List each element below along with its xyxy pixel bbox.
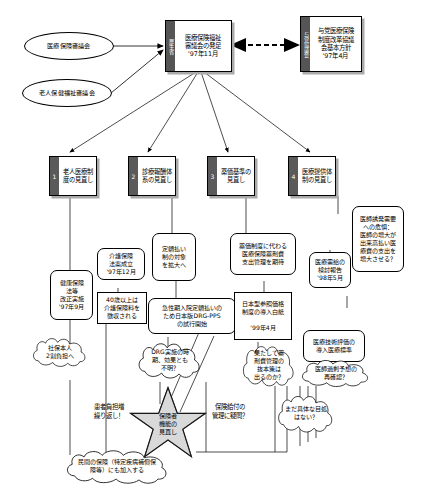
box-ruling-party-policy[interactable]: 与党協議会 与党医療保険 制度改革協議 会基本方針 '97年4月 bbox=[300, 16, 362, 72]
reform-box-number: 1 bbox=[50, 157, 59, 195]
callout-label: 定額払い 制の対象 を拡大へ bbox=[162, 245, 186, 269]
callout-label: 医療需給の 検討報告 '98年5月 bbox=[315, 258, 345, 282]
box-body-label: 医療保険福祉 審議会の発足 '97年11月 bbox=[175, 21, 231, 71]
reform-box-number: 4 bbox=[289, 157, 298, 195]
callout-supply-demand-report[interactable]: 医療需給の 検討報告 '98年5月 bbox=[309, 252, 351, 288]
callout-drg-pps-trial[interactable]: 急性期入院定額払いの ため日本版DRG-PPS の試行開始 bbox=[148, 298, 236, 334]
callout-label: 保険給付の 管理に疑問？ bbox=[212, 403, 248, 420]
callout-drug-cost-measures-doubt[interactable]: 果たして薬 剤費管理の 抜本策は 出るのか？ bbox=[240, 342, 298, 388]
box-spine-label: 厚生省 bbox=[166, 21, 175, 71]
callout-drug-pricing-alternative[interactable]: 薬価制度に代わる 医療保険薬剤費 支出管理を期待 bbox=[230, 233, 296, 275]
box-spine-label: 与党協議会 bbox=[301, 17, 310, 71]
input-oval-elderly-welfare-council[interactable]: 老人保健福祉審議会 bbox=[22, 79, 112, 107]
callout-reference-price-shelved[interactable]: 日本型参照価格 制度の導入白紙 '99年4月 bbox=[234, 292, 292, 340]
callout-label: 介護保険 法案成立 '97年12月 bbox=[106, 252, 135, 276]
reform-box-2[interactable]: 2 診療報酬体 系の見直し bbox=[128, 156, 176, 196]
box-ministry-council[interactable]: 厚生省 医療保険福祉 審議会の発足 '97年11月 bbox=[165, 20, 232, 72]
callout-label: 患者負担増 繰り返し！ bbox=[94, 403, 124, 420]
callout-fixed-payment-expansion[interactable]: 定額払い 制の対象 を拡大へ bbox=[152, 233, 196, 281]
box-body-label: 与党医療保険 制度改革協議 会基本方針 '97年4月 bbox=[310, 17, 361, 71]
diagram-canvas: ruling party (dashed double arrow) --> bbox=[0, 0, 421, 503]
reform-box-4[interactable]: 4 医療提供体 制の見直し bbox=[288, 156, 336, 196]
callout-label: 日本型参照価格 制度の導入白紙 '99年4月 bbox=[242, 300, 284, 332]
star-label: 保険者 機能の 見直し bbox=[159, 412, 177, 437]
reform-box-label: 診療報酬体 系の見直し bbox=[138, 157, 175, 195]
oval-label: 老人保健福祉審議会 bbox=[39, 89, 95, 97]
callout-label: 健康保険 法等 改正実施 '97年9月 bbox=[59, 279, 84, 311]
reform-box-label: 老人医療制 度の見直し bbox=[59, 157, 96, 195]
reform-box-number: 3 bbox=[208, 157, 217, 195]
callout-label: 民間の保険（特定疾病補償保 険等）にも加入する bbox=[73, 458, 161, 474]
reform-box-label: 医療提供体 制の見直し bbox=[298, 157, 335, 195]
callout-doctor-surplus-recheck[interactable]: 医師過剰予想の 再確認？ bbox=[298, 358, 374, 388]
callout-label: 医師過剰予想の 再確認？ bbox=[310, 365, 362, 381]
callout-label: 社保本人 2割負担へ bbox=[41, 344, 79, 360]
callout-label: 果たして薬 剤費管理の 抜本策は 出るのか？ bbox=[249, 349, 289, 381]
callout-no-concrete-prospect[interactable]: まだ具体な目処 はない？ bbox=[275, 392, 337, 434]
callout-label: 医師誘発需要 への危惧： 医師の増大が 出来高払い医 療費の支出を 増大させる？ bbox=[360, 215, 396, 263]
input-oval-medical-insurance-council[interactable]: 医療保険審議会 bbox=[24, 32, 114, 60]
callout-employee-copay-20pct[interactable]: 社保本人 2割負担へ bbox=[30, 336, 90, 368]
callout-label: 医療技術評価の 導入医療標準 bbox=[313, 338, 355, 354]
callout-label: 薬価制度に代わる 医療保険薬剤費 支出管理を期待 bbox=[239, 242, 287, 266]
callout-label: DRG実施の時 期、効果とも 不明？ bbox=[146, 348, 194, 372]
reform-box-number: 2 bbox=[129, 157, 138, 195]
callout-induced-demand-concern[interactable]: 医師誘発需要 への危惧： 医師の増大が 出来高払い医 療費の支出を 増大させる？ bbox=[352, 206, 404, 272]
callout-kaigo-insurance-law[interactable]: 介護保険 法案成立 '97年12月 bbox=[97, 248, 145, 280]
callout-health-insurance-law-revision[interactable]: 健康保険 法等 改正実施 '97年9月 bbox=[50, 270, 93, 320]
oval-label: 医療保険審議会 bbox=[47, 42, 90, 50]
callout-drg-timing-unclear[interactable]: DRG実施の時 期、効果とも 不明？ bbox=[135, 340, 205, 380]
star-insurer-function-review[interactable]: 保険者 機能の 見直し bbox=[129, 386, 207, 462]
reform-box-label: 薬価基準の 見直し bbox=[217, 157, 254, 195]
reform-box-1[interactable]: 1 老人医療制 度の見直し bbox=[49, 156, 97, 196]
callout-label: 急性期入院定額払いの ため日本版DRG-PPS の試行開始 bbox=[162, 304, 222, 328]
callout-label: 40歳以上は 介護保険料を 徴収される bbox=[104, 296, 140, 320]
reform-box-3[interactable]: 3 薬価基準の 見直し bbox=[207, 156, 255, 196]
callout-premium-age-40[interactable]: 40歳以上は 介護保険料を 徴収される bbox=[97, 292, 147, 324]
callout-label: まだ具体な目処 はない？ bbox=[280, 405, 332, 421]
